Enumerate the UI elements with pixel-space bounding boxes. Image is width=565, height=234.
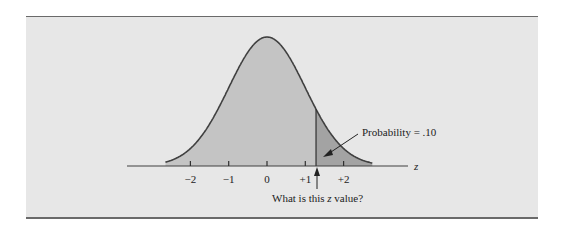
axis-tick-label: +2 bbox=[338, 173, 350, 185]
question-arrowhead-icon bbox=[314, 167, 320, 176]
axis-tick-label: −2 bbox=[185, 173, 197, 185]
question-label: What is this z value? bbox=[272, 192, 363, 204]
axis-tick-label: 0 bbox=[264, 173, 270, 185]
axis-tick-labels: −2−10+1+2 bbox=[185, 173, 350, 185]
axis-label-z: z bbox=[413, 160, 419, 172]
axis-tick-label: −1 bbox=[223, 173, 235, 185]
normal-curve-chart: −2−10+1+2 z Probability = .10 What is th… bbox=[0, 0, 565, 234]
curve-body-area bbox=[166, 37, 317, 166]
axis-tick-label: +1 bbox=[299, 173, 311, 185]
probability-label: Probability = .10 bbox=[362, 126, 437, 138]
